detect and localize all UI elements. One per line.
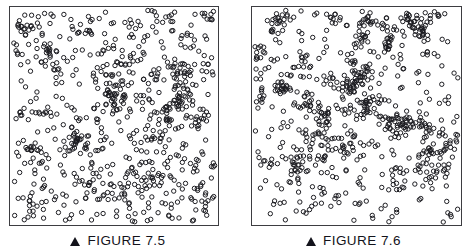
figure-caption-label: FIGURE 7.6: [323, 234, 401, 248]
figure-sheet: FIGURE 7.5 FIGURE 7.6: [0, 0, 471, 250]
scatter-canvas-7-6: [252, 7, 461, 225]
solid-up-triangle-icon: [306, 237, 316, 246]
scatter-canvas-7-5: [10, 7, 218, 225]
figure-caption-7-5: FIGURE 7.5: [0, 231, 236, 250]
scatter-plot-7-6: [251, 6, 462, 226]
solid-up-triangle-icon: [70, 237, 80, 246]
figure-caption-7-6: FIGURE 7.6: [236, 231, 471, 250]
figure-panel-7-6: FIGURE 7.6: [236, 0, 471, 250]
scatter-plot-7-5: [9, 6, 219, 226]
figure-caption-label: FIGURE 7.5: [87, 234, 165, 248]
figure-panel-7-5: FIGURE 7.5: [0, 0, 236, 250]
